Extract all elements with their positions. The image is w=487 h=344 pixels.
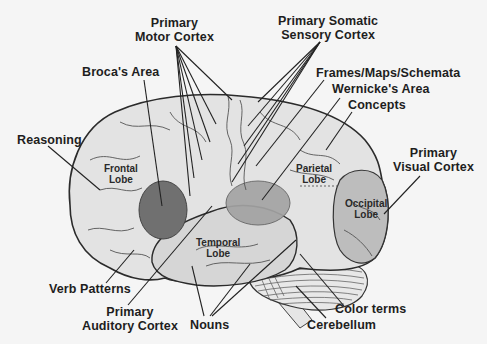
wernickes-area-shape	[226, 181, 290, 225]
label-frames-maps-schemata: Frames/Maps/Schemata	[316, 66, 460, 80]
lobe-frontal: Frontal Lobe	[104, 163, 138, 185]
label-verb-patterns: Verb Patterns	[49, 282, 131, 296]
lobe-occipital: Occipital Lobe	[345, 198, 387, 220]
label-primary-motor-cortex: Primary Motor Cortex	[135, 16, 214, 44]
label-cerebellum: Cerebellum	[307, 318, 376, 332]
label-nouns: Nouns	[190, 318, 229, 332]
label-reasoning: Reasoning	[17, 133, 82, 147]
brocas-area-shape	[139, 181, 187, 239]
label-color-terms: Color terms	[335, 302, 406, 316]
label-primary-visual-cortex: Primary Visual Cortex	[393, 146, 474, 174]
label-primary-somatic-sensory-cortex: Primary Somatic Sensory Cortex	[278, 14, 378, 42]
label-brocas-area: Broca's Area	[82, 65, 159, 79]
brain-diagram: Primary Motor Cortex Primary Somatic Sen…	[0, 0, 487, 344]
label-concepts: Concepts	[348, 98, 406, 112]
lobe-parietal: Parietal Lobe	[296, 163, 332, 185]
label-primary-auditory-cortex: Primary Auditory Cortex	[82, 305, 178, 333]
lobe-temporal: Temporal Lobe	[196, 237, 240, 259]
label-wernickes-area: Wernicke's Area	[332, 82, 430, 96]
